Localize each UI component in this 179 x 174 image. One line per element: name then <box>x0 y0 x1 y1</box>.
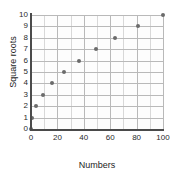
data-point <box>62 70 66 74</box>
gridline-vertical <box>110 15 111 129</box>
x-tick-label: 80 <box>124 134 150 142</box>
gridline-vertical <box>44 15 45 129</box>
data-point <box>41 93 45 97</box>
gridline-horizontal <box>31 15 163 16</box>
gridlines <box>31 15 163 129</box>
x-tick-label: 20 <box>44 134 70 142</box>
y-axis-line <box>30 13 32 131</box>
gridline-horizontal <box>31 118 163 119</box>
gridline-horizontal <box>31 26 163 27</box>
x-axis-line <box>30 129 164 131</box>
gridline-horizontal <box>31 38 163 39</box>
data-point <box>50 81 54 85</box>
data-point <box>161 13 165 17</box>
y-axis-title: Square roots <box>8 22 18 102</box>
gridline-vertical <box>84 15 85 129</box>
data-point <box>94 47 98 51</box>
gridline-vertical <box>97 15 98 129</box>
gridline-horizontal <box>31 95 163 96</box>
data-point <box>34 104 38 108</box>
y-tick-label: 1 <box>6 114 28 122</box>
gridline-vertical <box>163 15 164 129</box>
x-axis-title: Numbers <box>31 160 163 170</box>
data-point <box>136 24 140 28</box>
gridline-horizontal <box>31 106 163 107</box>
data-point <box>77 59 81 63</box>
gridline-horizontal <box>31 72 163 73</box>
gridline-vertical <box>123 15 124 129</box>
y-tick-label: 10 <box>6 11 28 19</box>
x-tick-label: 60 <box>97 134 123 142</box>
scatter-chart: 012345678910 020406080100 Numbers Square… <box>0 0 179 174</box>
gridline-vertical <box>71 15 72 129</box>
x-tick-label: 100 <box>150 134 176 142</box>
gridline-vertical <box>57 15 58 129</box>
x-tick-label: 40 <box>71 134 97 142</box>
gridline-horizontal <box>31 61 163 62</box>
y-tick-label: 2 <box>6 102 28 110</box>
x-axis-tick-labels: 020406080100 <box>31 134 163 146</box>
plot-area <box>31 15 163 129</box>
y-tick-label: 0 <box>6 125 28 133</box>
data-point <box>113 36 117 40</box>
gridline-vertical <box>137 15 138 129</box>
x-tick-label: 0 <box>18 134 44 142</box>
gridline-vertical <box>150 15 151 129</box>
